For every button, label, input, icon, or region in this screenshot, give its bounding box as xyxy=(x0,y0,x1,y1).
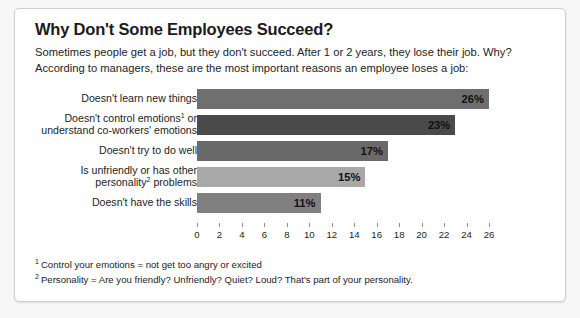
axis-tick xyxy=(444,223,445,227)
x-axis: 02468101214161820222426 xyxy=(197,223,489,247)
footnotes: 1Control your emotions = not get too ang… xyxy=(35,257,547,287)
axis-tick-label: 26 xyxy=(484,229,495,240)
axis-tick-label: 0 xyxy=(194,229,199,240)
axis-tick xyxy=(264,223,265,227)
axis-tick-label: 10 xyxy=(304,229,315,240)
axis-tick-label: 8 xyxy=(284,229,289,240)
bar-value-label: 23% xyxy=(428,119,450,131)
infographic-card: Why Don't Some Employees Succeed? Someti… xyxy=(14,8,566,302)
bar-row: Is unfriendly or has otherpersonality2 p… xyxy=(15,167,567,187)
axis-tick xyxy=(332,223,333,227)
bar-row: Doesn't control emotions1 orunderstand c… xyxy=(15,115,567,135)
axis-tick xyxy=(467,223,468,227)
footnote: 1Control your emotions = not get too ang… xyxy=(35,257,547,272)
bar: 17% xyxy=(197,141,388,161)
page-title: Why Don't Some Employees Succeed? xyxy=(35,20,333,39)
footnote-marker: 1 xyxy=(35,258,39,265)
axis-tick-label: 24 xyxy=(461,229,472,240)
bar: 15% xyxy=(197,167,365,187)
footnote-text: Control your emotions = not get too angr… xyxy=(41,259,262,270)
bar-category-label: Is unfriendly or has otherpersonality2 p… xyxy=(17,165,197,188)
footnote-text: Personality = Are you friendly? Unfriend… xyxy=(41,274,413,285)
bar-value-label: 15% xyxy=(338,171,360,183)
axis-tick-label: 16 xyxy=(371,229,382,240)
axis-tick-label: 18 xyxy=(394,229,405,240)
bar-category-label: Doesn't control emotions1 orunderstand c… xyxy=(17,113,197,136)
axis-tick xyxy=(422,223,423,227)
axis-tick-label: 12 xyxy=(326,229,337,240)
bar-chart: Doesn't learn new things26%Doesn't contr… xyxy=(15,89,567,249)
footnote-marker: 2 xyxy=(35,273,39,280)
axis-tick xyxy=(399,223,400,227)
bar: 11% xyxy=(197,193,321,213)
bar-category-label: Doesn't learn new things xyxy=(17,93,197,105)
bar-value-label: 17% xyxy=(361,145,383,157)
axis-tick-label: 4 xyxy=(239,229,244,240)
axis-tick-label: 22 xyxy=(439,229,450,240)
bar-row: Doesn't learn new things26% xyxy=(15,89,567,109)
axis-tick xyxy=(197,223,198,227)
bar-value-label: 26% xyxy=(462,93,484,105)
page-background: Why Don't Some Employees Succeed? Someti… xyxy=(0,0,580,318)
axis-tick xyxy=(354,223,355,227)
bar-row: Doesn't try to do well17% xyxy=(15,141,567,161)
bar-category-label: Doesn't have the skills xyxy=(17,197,197,209)
axis-tick-label: 2 xyxy=(217,229,222,240)
axis-tick-label: 14 xyxy=(349,229,360,240)
bar-value-label: 11% xyxy=(294,197,316,209)
page-subtitle: Sometimes people get a job, but they don… xyxy=(35,45,547,76)
axis-tick xyxy=(219,223,220,227)
axis-tick xyxy=(489,223,490,227)
axis-tick xyxy=(309,223,310,227)
footnote: 2Personality = Are you friendly? Unfrien… xyxy=(35,272,547,287)
axis-tick xyxy=(287,223,288,227)
axis-tick-label: 20 xyxy=(416,229,427,240)
bar-row: Doesn't have the skills11% xyxy=(15,193,567,213)
axis-tick xyxy=(242,223,243,227)
bar-rows: Doesn't learn new things26%Doesn't contr… xyxy=(15,89,567,219)
bar-category-label: Doesn't try to do well xyxy=(17,145,197,157)
axis-tick xyxy=(377,223,378,227)
bar: 26% xyxy=(197,89,489,109)
bar: 23% xyxy=(197,115,455,135)
axis-tick-label: 6 xyxy=(262,229,267,240)
